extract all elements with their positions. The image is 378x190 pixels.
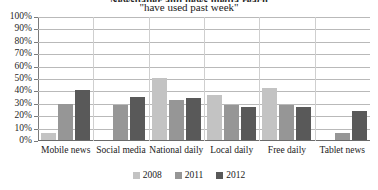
y-axis-label: 60% [15, 62, 32, 72]
bar-2008 [207, 95, 222, 140]
bar-2008 [41, 133, 56, 140]
y-axis-label: 40% [15, 87, 32, 97]
legend-label: 2011 [185, 170, 204, 180]
y-axis-label: 0% [19, 136, 32, 146]
bar-group [149, 16, 204, 140]
chart-subtitle: "have used past week" [0, 1, 378, 13]
y-axis-label: 20% [15, 111, 32, 121]
legend-item-2011[interactable]: 2011 [175, 170, 204, 180]
bar-2011 [58, 104, 73, 140]
y-axis-label: 30% [15, 99, 32, 109]
legend-swatch-icon [216, 172, 223, 179]
bar-2012 [130, 97, 145, 140]
y-axis-label: 90% [15, 25, 32, 35]
bar-group [315, 16, 370, 140]
legend-label: 2012 [226, 170, 245, 180]
legend-item-2008[interactable]: 2008 [133, 170, 162, 180]
x-axis-label: Social media [93, 145, 148, 156]
y-axis-label: 100% [10, 12, 32, 22]
bar-group [93, 16, 148, 140]
x-axis-label: Tablet news [315, 145, 370, 156]
bar-2012 [186, 98, 201, 140]
legend-swatch-icon [175, 172, 182, 179]
x-axis-label: Local daily [204, 145, 259, 156]
x-axis-label: Mobile news [38, 145, 93, 156]
y-axis-label: 10% [15, 124, 32, 134]
bar-2011 [335, 133, 350, 140]
legend: 200820112012 [0, 170, 378, 180]
bar-2011 [113, 105, 128, 140]
x-axis-label: Free daily [259, 145, 314, 156]
bar-2008 [262, 88, 277, 140]
bar-2012 [296, 107, 311, 140]
bar-2008 [152, 78, 167, 140]
bar-2012 [241, 107, 256, 140]
bar-2012 [352, 111, 367, 140]
x-axis-label: National daily [149, 145, 204, 156]
plot-area: 100%90%80%70%60%50%40%30%20%10%0% [38, 17, 370, 141]
bar-2011 [279, 105, 294, 140]
legend-swatch-icon [133, 172, 140, 179]
y-axis-label: 50% [15, 74, 32, 84]
bar-chart: Newspaper and news media reach "have use… [0, 0, 378, 190]
bar-2012 [75, 90, 90, 140]
bar-2011 [169, 100, 184, 140]
bar-2011 [224, 105, 239, 140]
bar-group [204, 16, 259, 140]
y-axis-label: 70% [15, 49, 32, 59]
legend-item-2012[interactable]: 2012 [216, 170, 245, 180]
bar-group [259, 16, 314, 140]
y-axis-tick [34, 141, 38, 142]
legend-label: 2008 [143, 170, 162, 180]
bar-group [38, 16, 93, 140]
y-axis-label: 80% [15, 37, 32, 47]
